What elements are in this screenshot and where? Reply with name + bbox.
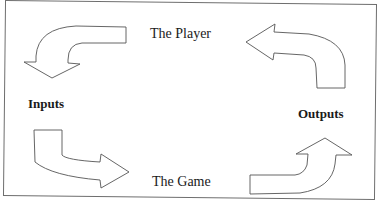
arrow-inputs-to-game-icon <box>34 130 129 188</box>
node-the-player: The Player <box>150 26 211 42</box>
node-outputs: Outputs <box>298 106 344 122</box>
node-the-game: The Game <box>152 174 211 190</box>
arrow-player-to-inputs-icon <box>24 26 126 78</box>
node-inputs: Inputs <box>28 96 64 112</box>
arrow-game-to-outputs-icon <box>250 138 352 194</box>
arrow-outputs-to-player-icon <box>246 24 345 88</box>
